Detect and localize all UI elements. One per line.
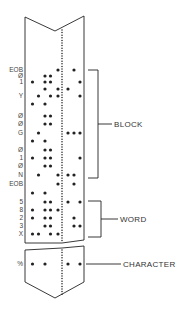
data-hole [37, 232, 40, 235]
data-hole [72, 173, 75, 176]
sprocket-hole [61, 92, 63, 94]
data-hole [49, 74, 52, 77]
data-hole [72, 182, 75, 185]
data-hole [43, 216, 46, 219]
row-label: 1 [19, 78, 23, 85]
sprocket-hole [61, 183, 63, 185]
sprocket-hole [61, 206, 63, 208]
data-hole [43, 208, 46, 211]
word-bracket [88, 201, 118, 237]
sprocket-hole [61, 278, 63, 280]
sprocket-hole [61, 262, 63, 264]
data-hole [56, 94, 59, 97]
data-hole [49, 200, 52, 203]
sprocket-hole [61, 175, 63, 177]
data-hole [56, 208, 59, 211]
data-hole [78, 200, 81, 203]
sprocket-hole [61, 222, 63, 224]
data-hole [43, 102, 46, 105]
sprocket-hole [61, 71, 63, 73]
sprocket-hole [61, 211, 63, 213]
data-hole [78, 94, 81, 97]
sprocket-hole [61, 60, 63, 62]
row-label: 2 [19, 214, 23, 221]
data-hole [72, 131, 75, 134]
data-hole [43, 122, 46, 125]
sprocket-hole [61, 249, 63, 251]
data-hole [43, 156, 46, 159]
sprocket-hole [61, 97, 63, 99]
sprocket-hole [61, 151, 63, 153]
sprocket-hole [61, 86, 63, 88]
sprocket-hole [61, 55, 63, 57]
sprocket-hole [61, 107, 63, 109]
character-hole [31, 262, 34, 265]
sprocket-hole [61, 170, 63, 172]
data-hole [43, 74, 46, 77]
sprocket-hole [61, 167, 63, 169]
sprocket-hole [61, 267, 63, 269]
block-bracket [88, 70, 112, 178]
sprocket-hole [61, 198, 63, 200]
data-hole [43, 80, 46, 83]
data-hole [66, 173, 69, 176]
sprocket-hole [61, 112, 63, 114]
sprocket-hole [61, 141, 63, 143]
data-hole [49, 208, 52, 211]
data-hole [72, 216, 75, 219]
sprocket-hole [61, 66, 63, 68]
character-hole [78, 262, 81, 265]
sprocket-hole [61, 235, 63, 237]
data-hole [43, 200, 46, 203]
data-hole [49, 232, 52, 235]
sprocket-hole [61, 188, 63, 190]
data-hole [56, 68, 59, 71]
row-label: Ø [18, 120, 23, 127]
row-label: G [18, 129, 23, 136]
sprocket-hole [61, 84, 63, 86]
sprocket-hole [61, 232, 63, 234]
sprocket-hole [61, 63, 63, 65]
sprocket-hole [61, 102, 63, 104]
sprocket-hole [61, 201, 63, 203]
sprocket-hole [61, 162, 63, 164]
sprocket-hole [61, 81, 63, 83]
row-label: EOB [9, 180, 23, 187]
sprocket-hole [61, 177, 63, 179]
data-hole [49, 148, 52, 151]
data-hole [49, 94, 52, 97]
data-hole [43, 114, 46, 117]
sprocket-hole [61, 120, 63, 122]
sprocket-hole [61, 286, 63, 288]
sprocket-hole [61, 224, 63, 226]
sprocket-hole [61, 146, 63, 148]
data-hole [66, 87, 69, 90]
row-label: 3 [19, 222, 23, 229]
row-label: N [18, 171, 23, 178]
sprocket-hole [61, 164, 63, 166]
word-label: WORD [120, 215, 147, 224]
row-label: Ø [18, 112, 23, 119]
data-hole [66, 131, 69, 134]
sprocket-hole [61, 131, 63, 133]
sprocket-hole [61, 125, 63, 127]
character-row-label: % [17, 260, 23, 267]
sprocket-hole [61, 265, 63, 267]
sprocket-hole [61, 219, 63, 221]
sprocket-hole [61, 190, 63, 192]
sprocket-hole [61, 159, 63, 161]
sprocket-hole [61, 196, 63, 198]
sprocket-hole [61, 180, 63, 182]
data-hole [43, 139, 46, 142]
data-hole [31, 232, 34, 235]
sprocket-hole [61, 133, 63, 135]
sprocket-hole [61, 216, 63, 218]
data-hole [49, 216, 52, 219]
sprocket-hole [61, 144, 63, 146]
sprocket-hole [61, 260, 63, 262]
sprocket-hole [61, 193, 63, 195]
data-hole [43, 164, 46, 167]
data-hole [31, 80, 34, 83]
tape-strip [25, 16, 84, 298]
sprocket-hole [61, 270, 63, 272]
